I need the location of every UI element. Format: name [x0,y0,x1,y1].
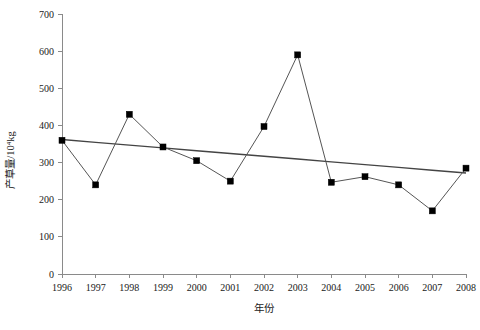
x-tick-label: 1997 [86,282,106,293]
data-point-marker [295,52,301,58]
data-point-marker [463,165,469,171]
data-series-line [62,55,466,211]
x-tick-label: 1999 [153,282,173,293]
x-tick-label: 2000 [187,282,207,293]
y-tick-label: 300 [39,157,54,168]
data-point-marker [194,158,200,164]
data-point-marker [160,144,166,150]
x-tick-label: 2004 [321,282,341,293]
y-tick-label: 0 [49,269,54,280]
x-tick-label: 1996 [52,282,72,293]
data-point-marker [328,179,334,185]
x-axis-title: 年份 [254,302,275,314]
line-chart: 0100200300400500600700 19961997199819992… [0,0,480,330]
data-point-marker [227,178,233,184]
x-tick-label: 2005 [355,282,375,293]
data-point-marker [126,111,132,117]
y-tick-label: 500 [39,83,54,94]
y-axis-title: 产草量/10⁴kg [4,130,16,188]
data-point-marker [93,182,99,188]
x-tick-label: 2007 [422,282,442,293]
x-tick-label: 2008 [456,282,476,293]
chart-container: 0100200300400500600700 19961997199819992… [0,0,480,330]
data-point-marker [429,208,435,214]
x-axis-ticks: 1996199719981999200020012002200320042005… [52,274,476,293]
x-tick-label: 2001 [220,282,240,293]
data-point-marker [59,137,65,143]
x-tick-label: 2002 [254,282,274,293]
y-tick-label: 700 [39,9,54,20]
y-tick-label: 200 [39,194,54,205]
x-tick-label: 1998 [119,282,139,293]
data-point-marker [261,124,267,130]
y-tick-label: 400 [39,120,54,131]
x-tick-label: 2006 [389,282,409,293]
data-point-marker [362,174,368,180]
x-tick-label: 2003 [288,282,308,293]
data-point-marker [396,182,402,188]
trend-line [62,140,466,173]
y-tick-label: 100 [39,231,54,242]
y-axis-ticks: 0100200300400500600700 [39,9,62,280]
y-tick-label: 600 [39,46,54,57]
